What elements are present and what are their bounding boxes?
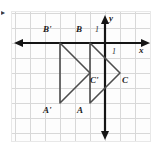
- vertex-label-b-prime: B': [43, 25, 52, 34]
- vertex-label-c: C: [122, 76, 128, 85]
- y-unit-tick-label: 1: [95, 26, 99, 34]
- vertex-label-b: B: [76, 25, 82, 34]
- vertex-label-a-prime: A': [43, 106, 52, 115]
- y-axis-arrow-down: [101, 131, 109, 140]
- triangle-a-prime-b-prime-c-prime: [60, 43, 90, 103]
- y-axis-label: y: [109, 14, 113, 23]
- figure-container: ▸: [0, 0, 158, 150]
- coordinate-plane: y x 1 1 B' B C' C A' A: [11, 11, 151, 142]
- vertex-label-c-prime: C': [90, 76, 99, 85]
- x-unit-tick-label: 1: [112, 48, 116, 56]
- x-axis-label: x: [139, 46, 144, 55]
- y-axis-arrow-up: [101, 15, 109, 24]
- corner-artifact-mark: ▸: [1, 9, 6, 16]
- vertex-label-a: A: [77, 106, 83, 115]
- x-axis-arrow-left: [14, 39, 23, 47]
